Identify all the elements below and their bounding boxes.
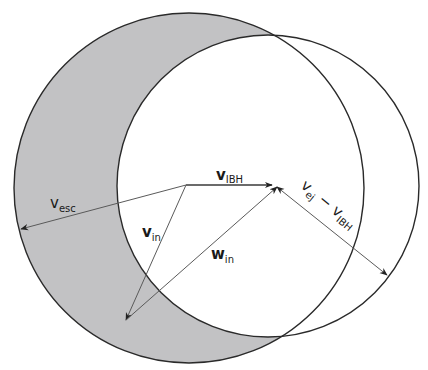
w-in-label: win [211, 245, 234, 265]
w-in-vector [126, 187, 277, 320]
v-ibh-label: vIBH [216, 166, 243, 185]
velocity-diagram: vIBH vesc vin win vej − vIBH [0, 0, 428, 370]
v-in-label: vin [142, 223, 161, 243]
escape-region-shading [14, 13, 364, 363]
v-ej-minus-v-ibh-label: vej − vIBH [296, 176, 360, 233]
ejecta-circle [117, 35, 419, 337]
